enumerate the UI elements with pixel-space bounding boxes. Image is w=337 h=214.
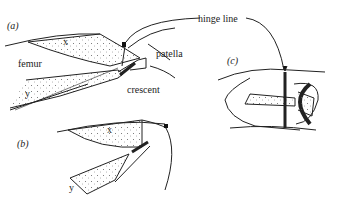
part-x-label-b: x	[107, 125, 112, 135]
diagram-canvas	[0, 0, 337, 214]
panel-b-drawing	[57, 120, 172, 194]
femur-label: femur	[18, 59, 42, 69]
crescent-label: crescent	[127, 85, 160, 95]
part-x-label-a: x	[63, 37, 68, 47]
panel-b-label: (b)	[17, 139, 29, 149]
panel-a-label: (a)	[7, 21, 19, 31]
panel-a-drawing	[5, 34, 175, 110]
hinge-line-label: hinge line	[198, 14, 238, 24]
patella-label: patella	[156, 49, 183, 59]
panel-c-drawing	[218, 69, 325, 130]
part-y-label-b: y	[69, 183, 74, 193]
panel-c-label: (c)	[227, 56, 238, 66]
part-y-label-a: y	[25, 89, 30, 99]
